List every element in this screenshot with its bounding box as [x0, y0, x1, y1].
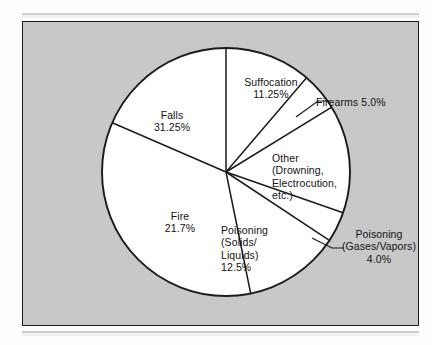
- pie-chart-svg: [0, 0, 432, 345]
- slice-label-poisoning-gases-vapors: Poisoning (Gases/Vapors) 4.0%: [330, 228, 428, 265]
- slice-label-poisoning-solids-liquids: Poisoning (Solids/ Liquids) 12.5%: [221, 224, 289, 274]
- figure-page: Falls 31.25% Suffocation 11.25% Firearms…: [0, 0, 432, 345]
- pie-chart: Falls 31.25% Suffocation 11.25% Firearms…: [0, 0, 432, 345]
- slice-label-fire: Fire 21.7%: [152, 210, 208, 235]
- slice-label-other: Other (Drowning, Electrocution, etc.): [272, 152, 356, 202]
- slice-label-falls: Falls 31.25%: [139, 109, 205, 134]
- slice-label-suffocation: Suffocation 11.25%: [232, 76, 310, 101]
- slice-label-firearms: Firearms 5.0%: [316, 96, 422, 108]
